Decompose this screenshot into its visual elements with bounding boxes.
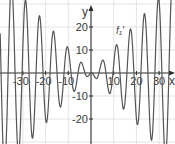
- y-tick-label: 10: [76, 44, 88, 56]
- x-tick-label: 10: [108, 75, 120, 87]
- curve-annotations: f₁': [116, 25, 125, 36]
- curve-label: f₁': [116, 25, 125, 36]
- y-tick-label: -20: [72, 113, 88, 125]
- y-tick-label: 20: [76, 21, 88, 33]
- chart: -30-20-101020302010-10-20 x y f₁': [0, 0, 175, 144]
- x-axis-label: x: [169, 74, 175, 88]
- y-axis-label: y: [82, 5, 88, 19]
- y-axis-arrow-icon: [89, 5, 94, 11]
